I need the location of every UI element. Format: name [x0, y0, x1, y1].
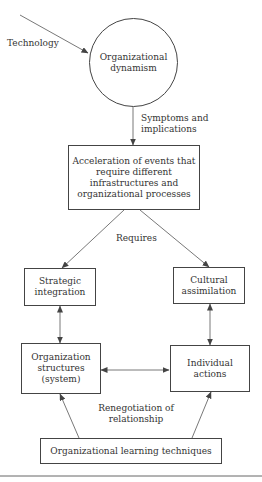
node-cultural-assimilation: Cultural assimilation [173, 267, 245, 304]
node-individual-actions: Individual actions [170, 345, 250, 392]
learning-individual-arrow [192, 392, 211, 438]
learning-structures-arrow [60, 394, 79, 438]
node-acceleration-of-events: Acceleration of events that require diff… [68, 145, 200, 210]
renegotiation-label: Renegotiation of relationship [96, 403, 176, 425]
technology-label: Technology [7, 38, 59, 49]
node-organizational-learning-techniques: Organizational learning techniques [40, 438, 222, 464]
node-organizational-dynamism: Organizational dynamism [89, 18, 178, 107]
node-organization-structures: Organization structures (system) [21, 343, 101, 394]
requires-label: Requires [116, 233, 157, 244]
symptoms-label: Symptoms and implications [141, 113, 209, 135]
requires-arrow-left [62, 210, 124, 268]
node-strategic-integration: Strategic integration [24, 268, 96, 306]
